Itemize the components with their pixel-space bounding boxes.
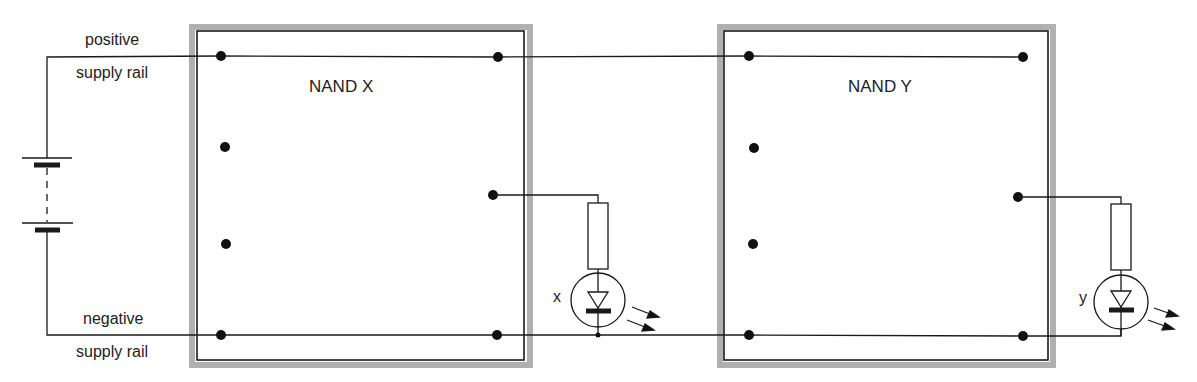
negative-rail-label-line1: negative bbox=[83, 310, 144, 328]
circuit-diagram bbox=[0, 0, 1197, 382]
resistor-y-icon bbox=[1111, 204, 1131, 270]
battery-icon bbox=[22, 158, 73, 230]
resistor-x-icon bbox=[588, 203, 608, 269]
positive-rail-label-line1: positive bbox=[85, 31, 139, 49]
positive-rail-label-line2: supply rail bbox=[76, 64, 148, 82]
negative-rail-label-line2: supply rail bbox=[76, 343, 148, 361]
led-y-label: y bbox=[1079, 289, 1087, 307]
nand-x-title: NAND X bbox=[309, 77, 373, 97]
led-x-label: x bbox=[553, 288, 561, 306]
nand-y-title: NAND Y bbox=[848, 77, 912, 97]
